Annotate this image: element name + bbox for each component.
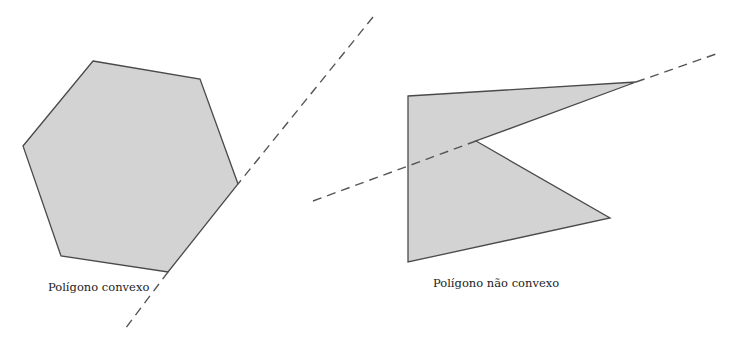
convex-polygon-label: Polígono convexo: [48, 280, 149, 294]
nonconvex-polygon-label: Polígono não convexo: [433, 276, 559, 290]
nonconvex-cutting-line-right: [636, 54, 716, 82]
nonconvex-polygon: [408, 82, 636, 262]
convex-supporting-line: [238, 17, 373, 184]
convex-hexagon: [23, 61, 238, 272]
